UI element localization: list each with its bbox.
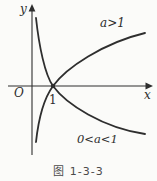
log-function-figure: y x O 1 a>1 0<a<1 图 1-3-3 — [0, 0, 157, 181]
intersection-point — [51, 84, 55, 88]
curve-label-a-between-0-and-1: 0<a<1 — [77, 134, 118, 146]
origin-label: O — [14, 87, 24, 99]
curve-a-between-0-and-1 — [36, 18, 145, 134]
y-axis-arrowhead-icon — [29, 4, 36, 12]
figure-caption: 图 1-3-3 — [0, 162, 157, 178]
x-tick-label-1: 1 — [49, 94, 57, 106]
curve-label-a-greater-than-1: a>1 — [100, 17, 125, 29]
x-axis-label: x — [144, 89, 151, 101]
y-axis-label: y — [20, 3, 27, 15]
